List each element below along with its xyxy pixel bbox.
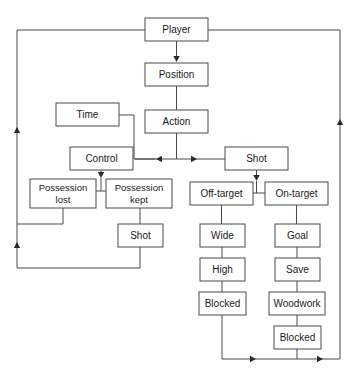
- flowchart-canvas: PlayerPositionTimeActionControlShotPosse…: [0, 0, 359, 379]
- node-label: Blocked: [205, 298, 241, 309]
- arrowhead-up-icon: [337, 119, 343, 125]
- node-possession_kept[interactable]: Possessionkept: [106, 179, 172, 208]
- node-woodwork[interactable]: Woodwork: [269, 292, 325, 315]
- arrowhead-up-icon: [14, 242, 20, 248]
- node-off_target[interactable]: Off-target: [190, 182, 253, 205]
- arrowhead-down-icon: [98, 172, 104, 178]
- edge-split-to-shot: [177, 156, 226, 162]
- arrowhead-left-icon: [156, 156, 162, 162]
- node-wide[interactable]: Wide: [200, 224, 245, 247]
- node-label: Possession: [39, 182, 88, 193]
- node-control[interactable]: Control: [70, 147, 133, 170]
- node-label: Woodwork: [273, 298, 321, 309]
- node-label: Wide: [211, 230, 234, 241]
- node-player[interactable]: Player: [145, 18, 208, 41]
- flowchart-svg: PlayerPositionTimeActionControlShotPosse…: [0, 0, 359, 379]
- arrowhead-down-icon: [253, 175, 259, 181]
- arrowhead-right-icon: [191, 156, 197, 162]
- edge-player-to-position: [173, 41, 179, 62]
- nodes-layer: PlayerPositionTimeActionControlShotPosse…: [30, 18, 328, 349]
- node-label-second-line: lost: [56, 194, 71, 205]
- arrowhead-down-icon: [173, 56, 179, 62]
- node-on_target[interactable]: On-target: [265, 182, 328, 205]
- edge-left-rail-arrow-lower: [14, 242, 20, 248]
- node-label: Control: [85, 153, 117, 164]
- node-label: High: [212, 264, 233, 275]
- edge-split-to-control: [135, 156, 177, 162]
- node-save[interactable]: Save: [275, 258, 320, 281]
- arrowhead-right-icon: [250, 356, 256, 362]
- node-label: Blocked: [280, 332, 316, 343]
- edge-line: [17, 247, 140, 268]
- node-blocked_right[interactable]: Blocked: [274, 326, 321, 349]
- edge-possession-lost-to-left: [17, 208, 63, 224]
- edge-left-rail-arrow-upper: [14, 127, 20, 133]
- node-action[interactable]: Action: [145, 110, 208, 133]
- node-shot_bottom[interactable]: Shot: [118, 224, 163, 247]
- node-label: Save: [286, 264, 309, 275]
- node-label: Goal: [287, 230, 308, 241]
- node-possession_lost[interactable]: Possessionlost: [30, 179, 96, 208]
- edge-control-to-possession: [98, 170, 104, 178]
- arrowhead-up-icon: [14, 127, 20, 133]
- node-label: Time: [77, 109, 99, 120]
- node-high[interactable]: High: [200, 258, 245, 281]
- edge-bottom-arrow-right: [317, 356, 323, 362]
- node-shot_top[interactable]: Shot: [225, 147, 288, 170]
- node-label: On-target: [275, 188, 317, 199]
- edge-bottom-arrow-left: [250, 356, 256, 362]
- node-label: Position: [159, 69, 195, 80]
- node-label: Action: [163, 116, 191, 127]
- edge-shot-to-targets: [253, 170, 259, 181]
- node-position[interactable]: Position: [145, 63, 208, 86]
- node-label: Shot: [130, 230, 151, 241]
- node-label-second-line: kept: [130, 194, 148, 205]
- node-label: Off-target: [200, 188, 242, 199]
- node-label: Player: [162, 24, 191, 35]
- node-time[interactable]: Time: [56, 103, 119, 126]
- edge-line: [17, 208, 63, 224]
- edge-shot-bottom-to-left: [17, 247, 140, 268]
- node-label: Possession: [115, 182, 164, 193]
- arrowhead-right-icon: [317, 356, 323, 362]
- node-label: Shot: [246, 153, 267, 164]
- node-goal[interactable]: Goal: [275, 224, 320, 247]
- node-blocked_left[interactable]: Blocked: [199, 292, 246, 315]
